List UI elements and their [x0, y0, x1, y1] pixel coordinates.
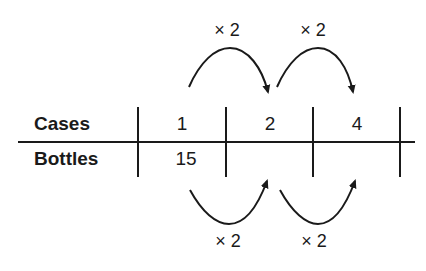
- bottom-arrow-2: [280, 181, 355, 224]
- bottom-arrows: [190, 181, 355, 224]
- bottom-arrow-1: [190, 181, 267, 224]
- row-label-cases: Cases: [34, 114, 90, 134]
- cell-cases-1: 1: [152, 114, 212, 134]
- top-arrows: [189, 48, 353, 92]
- cell-cases-2: 2: [240, 114, 300, 134]
- top-arrow-2: [277, 48, 353, 92]
- row-label-bottles: Bottles: [34, 149, 98, 169]
- cell-cases-3: 4: [327, 114, 387, 134]
- top-multiplier-2: × 2: [293, 20, 333, 40]
- top-arrow-1: [189, 48, 268, 92]
- bottom-multiplier-1: × 2: [208, 231, 248, 251]
- cell-bottles-1: 15: [156, 149, 216, 169]
- top-multiplier-1: × 2: [207, 20, 247, 40]
- bottom-multiplier-2: × 2: [294, 231, 334, 251]
